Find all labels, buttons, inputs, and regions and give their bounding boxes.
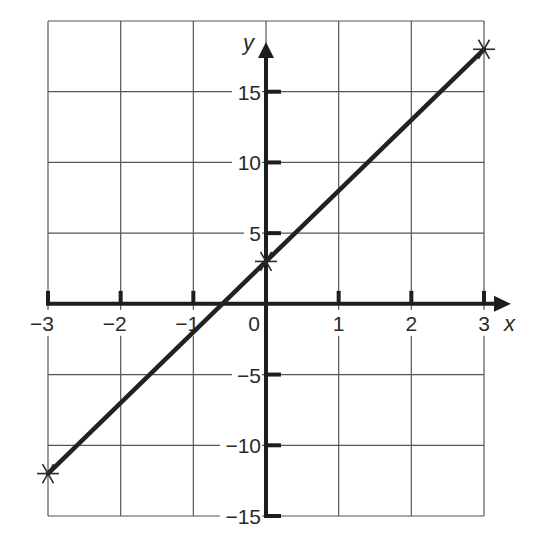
y-tick-label: 5 bbox=[249, 222, 261, 245]
x-tick-label: 3 bbox=[478, 312, 490, 335]
x-axis-arrow-icon bbox=[494, 296, 511, 312]
y-tick-label: −15 bbox=[225, 505, 261, 528]
y-axis-arrow-icon bbox=[258, 42, 274, 58]
y-tick-label: 15 bbox=[238, 81, 261, 104]
y-tick-label: 10 bbox=[238, 151, 261, 174]
y-axis-label: y bbox=[241, 30, 256, 55]
x-tick-label: 0 bbox=[248, 312, 260, 335]
x-tick-label: −3 bbox=[30, 312, 54, 335]
x-tick-label: 1 bbox=[333, 312, 345, 335]
x-tick-label: −2 bbox=[103, 312, 127, 335]
x-tick-label: 2 bbox=[405, 312, 417, 335]
y-tick-label: −5 bbox=[237, 364, 261, 387]
y-tick-label: −10 bbox=[225, 434, 261, 457]
x-axis-label: x bbox=[503, 311, 516, 336]
line-chart: −15−10−551015−3−2−10123 x y bbox=[0, 0, 535, 538]
